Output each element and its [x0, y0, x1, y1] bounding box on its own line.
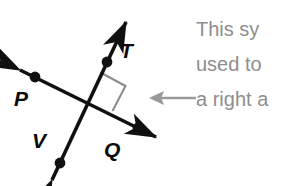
left-arrow-icon	[147, 84, 197, 112]
annotation-text-block: This sy used to a right a	[196, 12, 294, 117]
screenshot-canvas: P T Q V This sy used to a right a	[0, 0, 294, 186]
point-dot-V	[55, 158, 66, 169]
annotation-line-2: used to	[196, 47, 294, 82]
annotation-line-1: This sy	[196, 12, 294, 47]
left-arrow-pointer	[147, 84, 197, 112]
point-label-v: V	[32, 130, 46, 151]
point-dot-P	[30, 72, 41, 83]
annotation-line-3: a right a	[196, 82, 294, 117]
point-label-t: T	[120, 40, 133, 61]
point-label-p: P	[14, 88, 28, 109]
right-angle-square	[101, 73, 126, 112]
point-dot-T	[102, 57, 113, 68]
point-dot-Q	[133, 123, 144, 134]
point-label-q: Q	[104, 139, 120, 160]
